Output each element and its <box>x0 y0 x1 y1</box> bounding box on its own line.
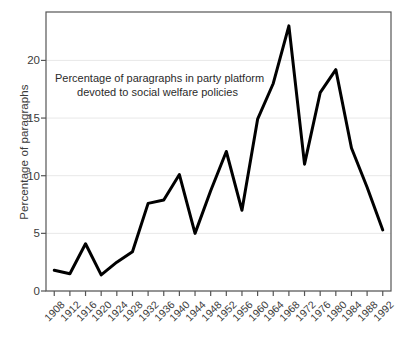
chart-figure: Percentage of paragraphs 05101520 190819… <box>0 0 405 350</box>
annotation-line-2: devoted to social welfare policies <box>55 86 260 100</box>
chart-annotation: Percentage of paragraphs in party platfo… <box>55 72 260 99</box>
x-axis-tick-labels: 1908191219161920192419281932193619401944… <box>0 0 405 350</box>
annotation-line-1: Percentage of paragraphs in party platfo… <box>55 72 260 86</box>
